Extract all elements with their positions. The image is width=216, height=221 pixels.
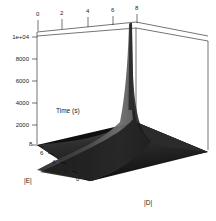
x-tick-label-2: 4 bbox=[86, 8, 89, 14]
plot-canvas bbox=[0, 0, 216, 221]
y-tick-label-1: 6 bbox=[40, 150, 43, 156]
x-axis-ticks bbox=[38, 14, 137, 31]
y-tick-label-2: 4 bbox=[52, 159, 55, 165]
y-axis-label: |E| bbox=[24, 178, 32, 185]
x-tick-label-3: 6 bbox=[111, 7, 114, 13]
z-tick-label-1: 8000 bbox=[2, 56, 29, 62]
y-tick-label-0: 8 bbox=[29, 141, 32, 147]
z-tick-label-0: 1e+04 bbox=[2, 34, 29, 40]
y-tick-label-3: 2 bbox=[64, 168, 67, 174]
x-tick-label-0: 0 bbox=[36, 11, 39, 17]
y-tick-label-4: 0 bbox=[76, 176, 79, 182]
x-tick-label-1: 2 bbox=[60, 10, 63, 16]
surface-plot-figure: 1e+04 8000 6000 4000 2000 0 2 4 6 8 8 6 … bbox=[0, 0, 216, 221]
z-tick-label-3: 4000 bbox=[2, 100, 29, 106]
x-axis-label: |D| bbox=[144, 200, 152, 207]
surface-mesh bbox=[37, 23, 208, 181]
z-tick-label-2: 6000 bbox=[2, 78, 29, 84]
x-tick-label-4: 8 bbox=[135, 5, 138, 11]
z-tick-label-4: 2000 bbox=[2, 122, 29, 128]
z-axis-label: Time (s) bbox=[56, 108, 80, 115]
z-axis-ticks bbox=[32, 37, 37, 145]
